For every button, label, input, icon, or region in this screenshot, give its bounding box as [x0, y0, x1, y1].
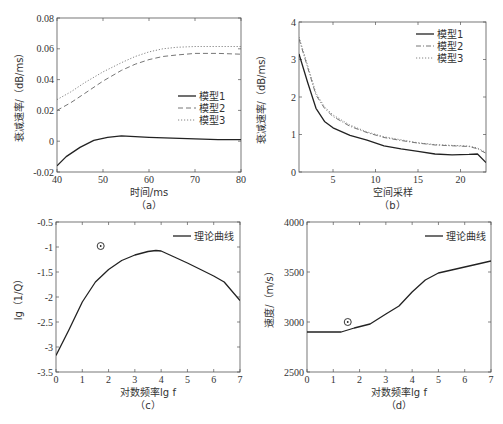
y-tick-label: 1	[291, 129, 296, 140]
chart-b: 510152001234空间采样衰减速率/（dB/ms）（b）模型1模型2模型3	[255, 17, 486, 212]
x-tick-label: 5	[436, 374, 441, 385]
y-tick-label: 2	[291, 92, 296, 103]
x-tick-label: 7	[238, 374, 243, 385]
y-tick-label: -3.5	[37, 367, 53, 378]
y-tick-label: 0.02	[37, 105, 55, 116]
plot-frame	[56, 222, 240, 372]
legend-item: 模型3	[416, 52, 463, 64]
subplot-caption: （b）	[379, 200, 405, 211]
y-tick-label: 0.08	[37, 13, 55, 24]
measured-point-marker	[344, 319, 351, 326]
x-axis-label: 对数频率lg f	[120, 386, 176, 398]
svg-text:模型3: 模型3	[437, 52, 463, 64]
y-tick-label: 3000	[284, 317, 304, 328]
series-line-1	[56, 251, 240, 356]
x-tick-label: 7	[489, 374, 494, 385]
y-tick-label: -2.5	[37, 317, 53, 328]
x-tick-label: 10	[371, 174, 381, 185]
x-tick-label: 6	[211, 374, 216, 385]
y-tick-label: 0	[49, 136, 54, 147]
y-axis-label: 衰减速率/（dB/ms）	[255, 50, 267, 145]
x-tick-label: 70	[190, 174, 200, 185]
svg-text:模型1: 模型1	[437, 28, 463, 40]
x-tick-label: 4	[159, 374, 164, 385]
y-tick-label: 3500	[284, 267, 304, 278]
svg-text:模型2: 模型2	[199, 102, 225, 114]
y-tick-label: -0.5	[37, 217, 53, 228]
legend-item: 理论曲线	[425, 230, 486, 242]
plot-frame	[307, 222, 491, 372]
x-tick-label: 1	[331, 374, 336, 385]
x-axis-ticks: 01234567	[305, 222, 494, 385]
y-tick-label: 4000	[284, 217, 304, 228]
legend-item: 理论曲线	[173, 230, 234, 242]
subplot-caption: （d）	[386, 400, 412, 411]
legend-item: 模型3	[178, 114, 225, 126]
chart-c: 01234567-3.5-3-2.5-2-1.5-1-0.5对数频率lg flg…	[13, 217, 243, 412]
x-tick-label: 5	[331, 174, 336, 185]
subplot-caption: （c）	[135, 400, 161, 411]
x-tick-label: 80	[236, 174, 246, 185]
x-axis-ticks: 4050607080	[52, 18, 246, 185]
x-tick-label: 2	[357, 374, 362, 385]
x-axis-label: 对数频率lg f	[371, 386, 427, 398]
x-tick-label: 60	[144, 174, 154, 185]
y-tick-label: -1.5	[37, 267, 53, 278]
x-tick-label: 3	[383, 374, 388, 385]
svg-text:理论曲线: 理论曲线	[194, 230, 234, 242]
series-line-1	[57, 136, 241, 166]
y-tick-label: 0.06	[37, 43, 55, 54]
legend-item: 模型2	[416, 40, 463, 52]
x-tick-label: 0	[305, 374, 310, 385]
y-tick-label: -1	[45, 242, 53, 253]
y-axis-label: lg（1/Q）	[13, 274, 24, 321]
chart-a: 4050607080-0.0200.020.040.060.08时间/ms衰减速…	[13, 13, 246, 212]
x-tick-label: 20	[456, 174, 466, 185]
svg-text:模型2: 模型2	[437, 40, 463, 52]
y-tick-label: -2	[45, 292, 53, 303]
legend-item: 模型1	[416, 28, 463, 40]
legend-item: 模型2	[178, 102, 225, 114]
y-tick-label: 3	[291, 54, 296, 65]
x-tick-label: 2	[106, 374, 111, 385]
x-axis-label: 空间采样	[373, 186, 413, 198]
svg-text:模型1: 模型1	[199, 90, 225, 102]
chart-d: 012345672500300035004000对数频率lg f速度/（m/s）…	[263, 217, 494, 412]
x-tick-label: 5	[185, 374, 190, 385]
x-tick-label: 3	[132, 374, 137, 385]
y-tick-label: 0.04	[37, 74, 55, 85]
x-axis-label: 时间/ms	[130, 186, 168, 198]
svg-text:理论曲线: 理论曲线	[446, 230, 486, 242]
x-tick-label: 50	[98, 174, 108, 185]
svg-text:模型3: 模型3	[199, 114, 225, 126]
figure: 4050607080-0.0200.020.040.060.08时间/ms衰减速…	[0, 0, 503, 424]
y-tick-label: -0.02	[33, 167, 54, 178]
x-tick-label: 1	[80, 374, 85, 385]
y-tick-label: 0	[291, 167, 296, 178]
x-tick-label: 4	[410, 374, 415, 385]
y-axis-label: 衰减速率/（dB/ms）	[13, 48, 25, 143]
measured-point-marker	[97, 243, 104, 250]
y-tick-label: -3	[45, 342, 53, 353]
y-tick-label: 2500	[284, 367, 304, 378]
series-line-1	[307, 261, 491, 332]
series-line-1	[299, 54, 486, 163]
x-tick-label: 0	[54, 374, 59, 385]
y-tick-label: 4	[291, 17, 296, 28]
x-tick-label: 15	[413, 174, 423, 185]
y-axis-label: 速度/（m/s）	[263, 266, 275, 328]
legend-item: 模型1	[178, 90, 225, 102]
x-tick-label: 6	[462, 374, 467, 385]
subplot-caption: （a）	[136, 200, 162, 211]
